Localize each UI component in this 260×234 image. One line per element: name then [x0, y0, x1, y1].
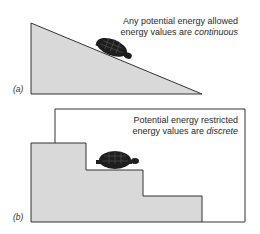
- caption-a-prefix: energy values are: [120, 27, 194, 37]
- turtle-icon-b: [96, 151, 139, 169]
- caption-b-prefix: energy values are: [132, 126, 206, 136]
- caption-a-line1: Any potential energy allowed: [120, 16, 238, 27]
- caption-b: Potential energy restricted energy value…: [132, 115, 238, 137]
- panel-label-b: (b): [13, 212, 23, 222]
- caption-a-line2: energy values are continuous: [120, 27, 238, 38]
- caption-a-emph: continuous: [194, 27, 238, 37]
- caption-b-line1: Potential energy restricted: [132, 115, 238, 126]
- caption-a: Any potential energy allowed energy valu…: [120, 16, 238, 38]
- caption-b-line2: energy values are discrete: [132, 126, 238, 137]
- caption-b-emph: discrete: [206, 126, 238, 136]
- panel-label-a: (a): [13, 84, 23, 94]
